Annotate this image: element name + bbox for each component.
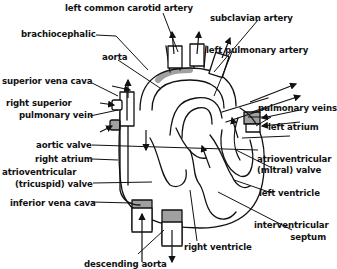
label-right-superior-pulmonary-vein-line1: right superior xyxy=(6,98,72,108)
label-av-tricuspid-valve-line1: atrioventricular xyxy=(2,167,76,177)
label-av-mitral-valve-line1: atrioventricular xyxy=(257,154,331,164)
label-aorta: aorta xyxy=(102,52,127,62)
label-right-atrium: right atrium xyxy=(35,154,93,164)
label-descending-aorta: descending aorta xyxy=(84,259,167,269)
label-interventricular-septum-line2: septum xyxy=(254,232,326,242)
label-inferior-vena-cava: inferior vena cava xyxy=(10,198,96,208)
label-right-ventricle: right ventricle xyxy=(184,242,252,252)
label-av-mitral-valve-line2: (mitral) valve xyxy=(257,165,321,175)
label-interventricular-septum-line1: interventricular xyxy=(254,220,329,230)
label-aortic-valve: aortic valve xyxy=(36,140,92,150)
label-pulmonary-veins: pulmonary veins xyxy=(258,103,337,113)
label-av-tricuspid-valve-line2: (tricuspid) valve xyxy=(15,179,93,189)
label-left-ventricle: left ventricle xyxy=(259,188,320,198)
label-superior-vena-cava: superior vena cava xyxy=(2,76,92,86)
label-right-superior-pulmonary-vein-line2: pulmonary vein xyxy=(19,110,93,120)
label-left-atrium: left atrium xyxy=(268,122,319,132)
label-subclavian-artery: subclavian artery xyxy=(210,13,293,23)
label-brachiocephalic: brachiocephalic xyxy=(21,29,96,39)
label-left-pulmonary-artery: left pulmonary artery xyxy=(206,45,308,55)
label-left-common-carotid-artery: left common carotid artery xyxy=(65,3,193,13)
